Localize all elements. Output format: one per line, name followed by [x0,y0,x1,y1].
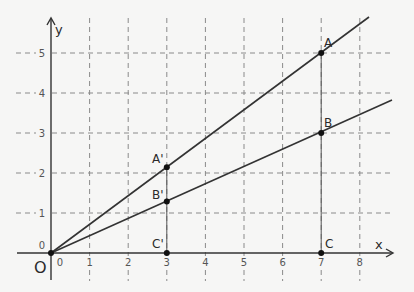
x-tick-1: 1 [86,257,92,268]
label-A: A [324,36,333,50]
grid [16,18,392,281]
x-tick-2: 2 [125,257,131,268]
label-C: C [325,237,333,251]
x-tick-5: 5 [241,257,247,268]
x-tick-0: 0 [57,257,63,268]
y-tick-3: 3 [39,128,45,139]
point-B [318,130,324,136]
x-tick-3: 3 [164,257,170,268]
x-axis-label: x [375,237,383,252]
rays [51,17,392,253]
y-tick-0: 0 [39,240,45,251]
point-A [318,50,324,56]
tick-label-backgrounds [36,46,366,269]
y-axis-label: y [55,22,63,37]
point-O [48,250,54,256]
label-B-prime: B' [152,188,164,202]
x-tick-6: 6 [279,257,285,268]
x-tick-4: 4 [202,257,208,268]
line-OB [51,100,392,253]
point-C [318,250,324,256]
y-tick-4: 4 [39,88,45,99]
y-tick-5: 5 [39,48,45,59]
point-C-prime [164,250,170,256]
x-tick-7: 7 [318,257,324,268]
coordinate-plane: 0 1 2 3 4 5 6 7 8 0 1 2 3 4 5 y x O A B … [0,0,414,292]
y-tick-2: 2 [39,168,45,179]
label-C-prime: C' [152,237,164,251]
label-A-prime: A' [152,152,164,166]
label-B: B [324,116,332,130]
point-A-prime [164,164,170,170]
point-B-prime [164,199,170,205]
y-tick-1: 1 [39,208,45,219]
origin-label: O [34,258,47,277]
geometry-diagram: 0 1 2 3 4 5 6 7 8 0 1 2 3 4 5 y x O A B … [0,0,414,292]
x-tick-8: 8 [357,257,363,268]
